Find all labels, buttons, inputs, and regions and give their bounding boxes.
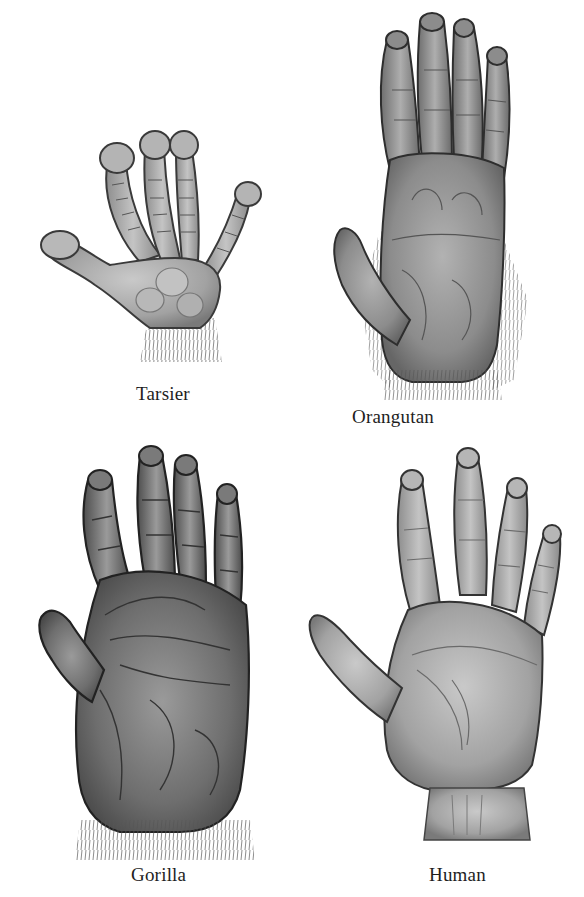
tarsier-caption: Tarsier	[136, 383, 190, 405]
gorilla-hand-illustration	[0, 440, 292, 897]
gorilla-caption: Gorilla	[131, 864, 186, 886]
human-hand-illustration	[292, 440, 584, 897]
human-caption: Human	[429, 864, 486, 886]
orangutan-caption: Orangutan	[352, 406, 434, 428]
orangutan-hand-illustration	[292, 0, 584, 440]
orangutan-panel: Orangutan	[292, 0, 584, 440]
human-panel: Human	[292, 440, 584, 897]
gorilla-panel: Gorilla	[0, 440, 292, 897]
tarsier-panel: Tarsier	[0, 0, 292, 420]
tarsier-hand-illustration	[0, 0, 292, 420]
